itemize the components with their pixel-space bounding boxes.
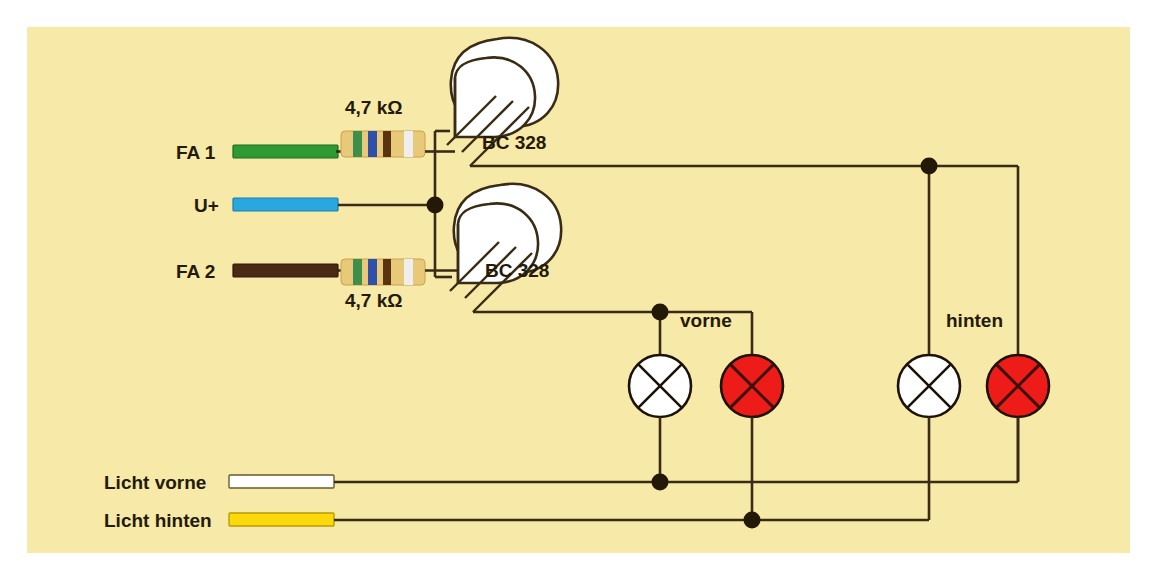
resistor-r2 (341, 259, 425, 285)
junction-dot-uplus (427, 197, 444, 214)
terminal-label-fa1: FA 1 (176, 142, 216, 163)
transistor-label-q2: BC 328 (485, 260, 549, 281)
terminal-wire-fa1 (233, 145, 338, 158)
junction-dot-vorne-white-return (652, 474, 669, 491)
lamp-vorne-white (629, 355, 691, 417)
supply-label-licht-vorne: Licht vorne (104, 472, 206, 493)
resistor-label-r1: 4,7 kΩ (345, 97, 403, 118)
diagram-root: FA 1 U+ FA 2 4,7 kΩ (0, 0, 1157, 579)
supply-wire-licht-vorne (229, 475, 334, 488)
transistor-q2: BC 328 (450, 184, 561, 312)
resistor-label-r2: 4,7 kΩ (345, 290, 403, 311)
supply-label-licht-hinten: Licht hinten (104, 510, 212, 531)
resistor-r1 (341, 131, 425, 157)
lamp-group-label-vorne: vorne (680, 310, 732, 331)
lamp-hinten-red (987, 355, 1049, 417)
terminal-label-uplus: U+ (194, 195, 219, 216)
terminal-wire-uplus (233, 198, 338, 211)
lamp-vorne-red (721, 355, 783, 417)
circuit-schematic: FA 1 U+ FA 2 4,7 kΩ (0, 0, 1157, 579)
junction-dot-vorne-red-return (744, 512, 761, 529)
terminal-label-fa2: FA 2 (176, 261, 215, 282)
terminal-wire-fa2 (233, 264, 338, 277)
supply-wire-licht-hinten (229, 513, 334, 526)
transistor-label-q1: BC 328 (482, 132, 546, 153)
transistor-q1: BC 328 (447, 38, 558, 166)
lamp-group-label-hinten: hinten (946, 310, 1003, 331)
junction-dot-q1-collector (921, 158, 938, 175)
junction-dot-q2-collector (652, 304, 669, 321)
lamp-hinten-white (898, 355, 960, 417)
